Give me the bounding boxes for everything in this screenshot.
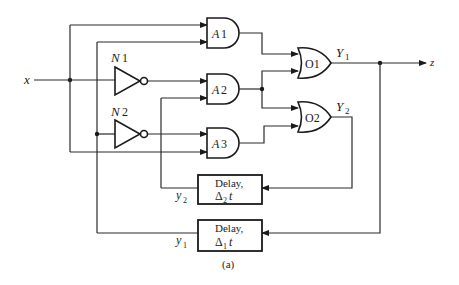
svg-text:Delay,: Delay, [215, 177, 244, 189]
circuit-diagram: x N 1 N 2 A 1 A 2 A 3 [0, 0, 459, 285]
svg-text:Delay,: Delay, [215, 222, 244, 234]
output-z-label: z [429, 56, 435, 68]
and-gate-a1: A 1 [207, 18, 239, 48]
y1-feedback-sub: 1 [183, 241, 187, 250]
y2-out-letter: Y [336, 99, 345, 114]
junction-a2 [260, 87, 264, 91]
y2-feedback-sub: 2 [183, 196, 187, 205]
wire-a3-to-o2 [239, 126, 298, 143]
y1-feedback-letter: y [175, 233, 182, 247]
n1-label-num: 1 [122, 51, 128, 65]
wire-a2-to-o1 [262, 71, 298, 89]
or-gate-o2: O2 [298, 102, 331, 132]
svg-text:A: A [211, 83, 220, 97]
svg-text:A: A [211, 27, 220, 41]
y2-out-sub: 2 [345, 106, 350, 116]
svg-text:O1: O1 [305, 57, 320, 71]
not-gate-n2 [115, 120, 140, 148]
delay-box-1: Delay, Δ 1 t [198, 220, 262, 251]
n2-label-num: 2 [122, 105, 128, 119]
and-gate-a2: A 2 [207, 74, 239, 104]
input-x-label: x [23, 72, 30, 87]
svg-text:Δ: Δ [215, 189, 223, 203]
svg-text:O2: O2 [305, 111, 320, 125]
y2-feedback-letter: y [175, 188, 182, 202]
svg-text:1: 1 [223, 242, 227, 251]
svg-text:Δ: Δ [215, 235, 223, 249]
svg-text:A: A [211, 137, 220, 151]
and-gate-a3: A 3 [207, 128, 239, 158]
y1-out-sub: 1 [345, 52, 350, 62]
junction-y1 [95, 132, 99, 136]
n2-label-letter: N [110, 104, 121, 119]
wire-a1-to-o1 [239, 33, 298, 54]
delay-box-2: Delay, Δ 2 t [198, 175, 262, 205]
n1-bubble [141, 78, 148, 85]
n2-bubble [141, 131, 148, 138]
svg-text:2: 2 [223, 196, 227, 205]
svg-text:2: 2 [221, 83, 227, 97]
svg-text:3: 3 [221, 137, 227, 151]
not-gate-n1 [115, 67, 140, 95]
n1-label-letter: N [110, 50, 121, 65]
or-gate-o1: O1 [298, 48, 331, 78]
y1-out-letter: Y [336, 45, 345, 60]
figure-caption: (a) [222, 258, 235, 271]
svg-text:1: 1 [221, 27, 227, 41]
wire-y1-feedback [262, 63, 380, 233]
wire-a2-to-o2 [262, 89, 298, 108]
